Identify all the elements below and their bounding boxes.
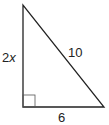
left-side-label: 2x (2, 50, 16, 65)
bottom-side-label: 6 (58, 110, 65, 125)
hypotenuse-label: 10 (68, 45, 82, 60)
triangle (23, 5, 104, 107)
right-triangle-diagram: 2x 10 6 (0, 0, 109, 125)
right-angle-marker (23, 95, 35, 107)
